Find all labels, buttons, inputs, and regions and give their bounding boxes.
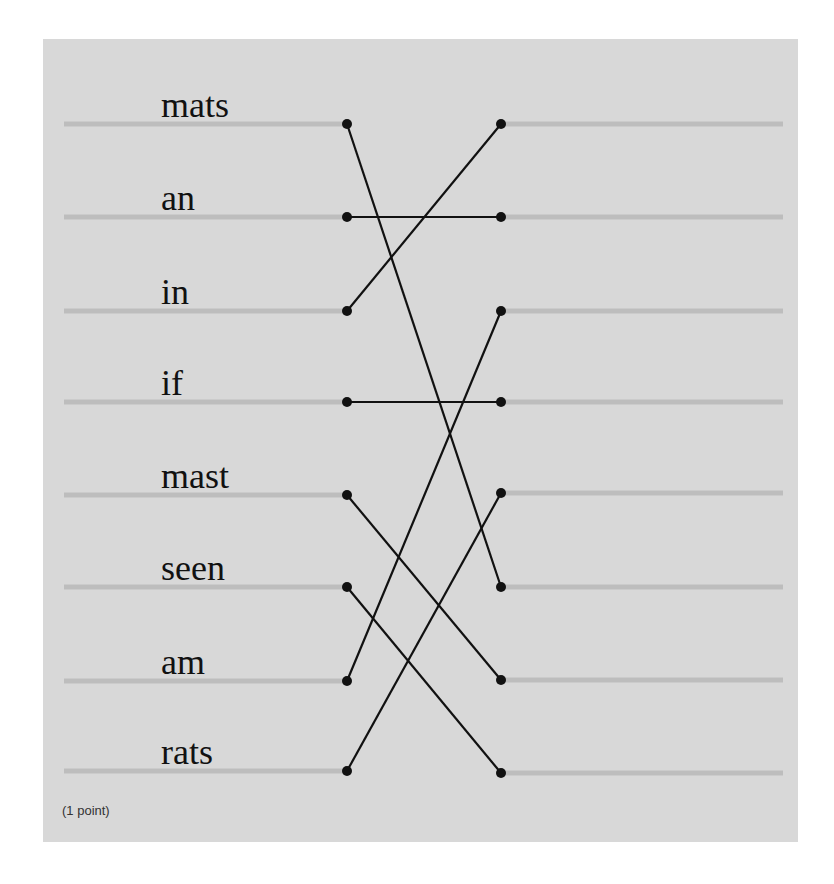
connector-lines[interactable]: [347, 124, 501, 773]
left-dot-8[interactable]: [342, 766, 352, 776]
left-dot-2[interactable]: [342, 212, 352, 222]
left-dot-7[interactable]: [342, 676, 352, 686]
connector-line[interactable]: [347, 495, 501, 680]
left-word-if: if: [161, 365, 183, 401]
left-dot-1[interactable]: [342, 119, 352, 129]
right-dot-4[interactable]: [496, 397, 506, 407]
left-word-mast: mast: [161, 458, 229, 494]
right-dot-3[interactable]: [496, 306, 506, 316]
connector-line[interactable]: [347, 124, 501, 587]
left-word-an: an: [161, 180, 195, 216]
left-dot-5[interactable]: [342, 490, 352, 500]
left-word-seen: seen: [161, 550, 225, 586]
points-label: (1 point): [62, 803, 110, 818]
left-word-mats: mats: [161, 87, 229, 123]
right-dot-6[interactable]: [496, 582, 506, 592]
connector-line[interactable]: [347, 311, 501, 681]
left-word-in: in: [161, 274, 189, 310]
left-word-am: am: [161, 644, 205, 680]
right-dot-5[interactable]: [496, 488, 506, 498]
right-dot-2[interactable]: [496, 212, 506, 222]
right-dot-7[interactable]: [496, 675, 506, 685]
right-dot-1[interactable]: [496, 119, 506, 129]
connector-line[interactable]: [347, 493, 501, 771]
connector-line[interactable]: [347, 587, 501, 773]
right-dot-8[interactable]: [496, 768, 506, 778]
left-dot-6[interactable]: [342, 582, 352, 592]
left-dot-3[interactable]: [342, 306, 352, 316]
left-dot-4[interactable]: [342, 397, 352, 407]
left-word-rats: rats: [161, 734, 213, 770]
matching-board: [0, 0, 834, 884]
